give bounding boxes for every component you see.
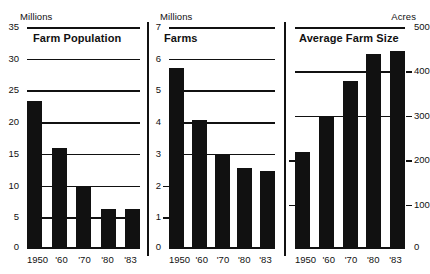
ytick-mark-200	[406, 160, 412, 162]
bar-item	[237, 27, 252, 247]
bar-1950	[27, 101, 42, 247]
ytick-label-200: 200	[414, 155, 430, 165]
panel-separator-2	[284, 22, 286, 256]
ytick-label-3: 3	[156, 149, 161, 159]
xlabel-1950: 1950	[27, 254, 48, 265]
xlabel-1970: '70	[214, 254, 233, 265]
bar-item	[27, 27, 42, 247]
xlabel-1983: '83	[121, 254, 140, 265]
bar-1983	[260, 171, 275, 247]
ytick-label-5: 5	[156, 85, 161, 95]
bar-1983	[390, 51, 405, 247]
xlabel-1950: 1950	[295, 254, 316, 265]
bar-1950	[295, 152, 310, 248]
bar-item	[215, 27, 230, 247]
bar-item	[366, 27, 381, 247]
xlabel-1950: 1950	[169, 254, 190, 265]
ytick-label-25: 25	[8, 85, 19, 95]
chart-panel-average-farm-size: Acres Average Farm Size 500 400 300 200 …	[285, 0, 425, 274]
plot-area: 35 30 25 20 15 10 5 0	[27, 27, 140, 249]
xlabel-1960: '60	[52, 254, 71, 265]
bar-item	[125, 27, 140, 247]
bar-item	[343, 27, 358, 247]
ytick-mark-400	[406, 71, 412, 73]
bar-item	[319, 27, 334, 247]
x-axis-line	[169, 247, 275, 249]
ytick-label-500: 500	[414, 22, 430, 32]
xlabel-1960: '60	[192, 254, 211, 265]
bar-1970	[76, 186, 91, 248]
bar-item	[101, 27, 116, 247]
chart-panel-farms: Millions Farms 7 6 5 4 3 2 1 0	[148, 0, 285, 274]
bar-series	[27, 27, 140, 247]
x-axis-labels: 1950 '60 '70 '80 '83	[27, 254, 140, 265]
bar-item	[52, 27, 67, 247]
xlabel-1983: '83	[256, 254, 275, 265]
plot-area: 7 6 5 4 3 2 1 0	[169, 27, 275, 249]
bar-1960	[52, 148, 67, 247]
ytick-label-35: 35	[8, 22, 19, 32]
xlabel-1980: '80	[364, 254, 383, 265]
ytick-label-4: 4	[156, 117, 161, 127]
chart-panel-farm-population: Millions Farm Population 35 30 25 20 15 …	[0, 0, 148, 274]
plot-area: 500 400 300 200 100 0	[295, 27, 405, 249]
bar-item	[295, 27, 310, 247]
ytick-label-5: 5	[14, 212, 19, 222]
bar-item	[260, 27, 275, 247]
y-axis-unit-label: Acres	[391, 12, 416, 22]
x-axis-line	[27, 247, 140, 249]
xlabel-1980: '80	[98, 254, 117, 265]
bar-item	[169, 27, 184, 247]
ytick-label-0: 0	[14, 242, 19, 252]
panel-separator-1	[147, 22, 149, 256]
bar-1950	[169, 68, 184, 247]
x-axis-line	[295, 247, 405, 249]
xlabel-1970: '70	[342, 254, 361, 265]
bar-1980	[366, 54, 381, 247]
ytick-label-1: 1	[156, 212, 161, 222]
ytick-label-0: 0	[156, 242, 161, 252]
ytick-label-300: 300	[414, 111, 430, 121]
ytick-label-0: 0	[414, 242, 419, 252]
ytick-label-400: 400	[414, 66, 430, 76]
y-axis-unit-label: Millions	[20, 12, 52, 22]
bar-1980	[237, 168, 252, 247]
x-axis-labels: 1950 '60 '70 '80 '83	[295, 254, 405, 265]
ytick-label-2: 2	[156, 181, 161, 191]
y-axis-unit-label: Millions	[160, 12, 192, 22]
ytick-mark-300	[406, 116, 412, 118]
ytick-label-100: 100	[414, 200, 430, 210]
xlabel-1983: '83	[386, 254, 405, 265]
x-axis-labels: 1950 '60 '70 '80 '83	[169, 254, 275, 265]
ytick-mark-100	[406, 205, 412, 207]
bar-1980	[101, 209, 116, 247]
xlabel-1970: '70	[75, 254, 94, 265]
ytick-label-7: 7	[156, 22, 161, 32]
ytick-label-10: 10	[8, 181, 19, 191]
bar-series	[169, 27, 275, 247]
bar-1970	[343, 81, 358, 248]
xlabel-1980: '80	[235, 254, 254, 265]
bar-item	[390, 27, 405, 247]
bar-1960	[319, 117, 334, 247]
bar-1960	[192, 120, 207, 247]
xlabel-1960: '60	[319, 254, 338, 265]
bar-1983	[125, 209, 140, 247]
bar-series	[295, 27, 405, 247]
ytick-label-6: 6	[156, 54, 161, 64]
ytick-label-15: 15	[8, 149, 19, 159]
ytick-label-20: 20	[8, 117, 19, 127]
bar-item	[76, 27, 91, 247]
bar-1970	[215, 154, 230, 248]
ytick-label-30: 30	[8, 54, 19, 64]
bar-item	[192, 27, 207, 247]
